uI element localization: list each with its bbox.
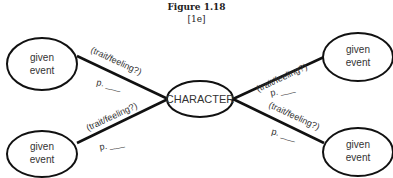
event-label-line1: given xyxy=(346,139,370,150)
event-node-bottom-right: given event xyxy=(323,128,393,176)
event-node-top-left: given event xyxy=(7,38,77,90)
edge-question-label: (trait/feeling?) xyxy=(89,45,143,77)
edge-page-label: p. ___ xyxy=(99,138,126,152)
event-label-line2: event xyxy=(346,152,371,163)
event-label-line1: given xyxy=(30,141,54,152)
event-node-bottom-left: given event xyxy=(7,131,77,177)
character-map-diagram: CHARACTER given event given event given … xyxy=(0,0,393,178)
event-label-line2: event xyxy=(346,57,371,68)
edge-page-label: p. ___ xyxy=(96,77,124,92)
character-label: CHARACTER xyxy=(166,93,235,105)
event-label-line2: event xyxy=(30,154,55,165)
event-label-line2: event xyxy=(30,65,55,76)
character-node: CHARACTER xyxy=(166,81,235,117)
event-label-line1: given xyxy=(346,44,370,55)
event-node-top-right: given event xyxy=(323,33,393,81)
event-label-line1: given xyxy=(30,52,54,63)
